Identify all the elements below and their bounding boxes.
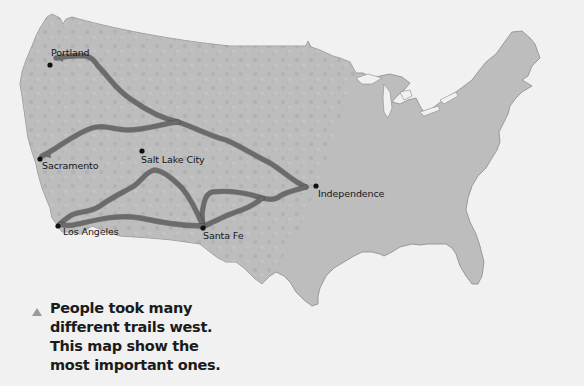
city-label-salt-lake-city: Salt Lake City [141, 154, 205, 165]
map-caption: People took many different trails west. … [32, 299, 232, 375]
caption-text: People took many different trails west. … [50, 299, 232, 375]
trails-map: Portland Sacramento Salt Lake City Los A… [0, 0, 584, 386]
city-label-los-angeles: Los Angeles [63, 226, 119, 237]
triangle-up-icon [32, 308, 42, 316]
city-label-santa-fe: Santa Fe [203, 230, 243, 241]
city-dot-salt-lake-city [139, 148, 144, 153]
city-dot-los-angeles [55, 223, 60, 228]
city-label-independence: Independence [318, 188, 384, 199]
city-dot-portland [47, 62, 52, 67]
city-label-portland: Portland [51, 47, 90, 58]
city-label-sacramento: Sacramento [42, 160, 98, 171]
